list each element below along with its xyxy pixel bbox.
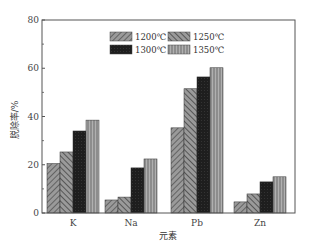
y-tick-label: 40 <box>28 112 40 122</box>
legend-item: 1200℃ <box>110 32 166 42</box>
bar-na-0 <box>105 200 118 213</box>
legend-item: 1300℃ <box>110 45 166 55</box>
legend: 1200℃1250℃1300℃1350℃ <box>110 32 224 55</box>
x-axis-title: 元素 <box>159 230 177 241</box>
bar-pb-3 <box>210 68 223 213</box>
bar-zn-3 <box>273 177 286 213</box>
legend-label: 1300℃ <box>135 45 166 55</box>
bar-k-1 <box>60 152 73 213</box>
bar-na-1 <box>118 197 131 213</box>
legend-label: 1350℃ <box>193 45 224 55</box>
bar-na-3 <box>144 159 157 213</box>
legend-item: 1250℃ <box>168 32 224 42</box>
y-tick-label: 60 <box>28 63 40 73</box>
bar-na-2 <box>131 168 144 213</box>
x-tick-label: K <box>70 218 77 228</box>
y-tick-label: 20 <box>28 160 40 170</box>
legend-swatch <box>168 45 190 54</box>
legend-swatch <box>168 32 190 41</box>
bar-k-0 <box>47 164 60 213</box>
x-tick-label: Zn <box>254 218 266 228</box>
bar-pb-1 <box>184 89 197 213</box>
y-tick-label: 0 <box>33 208 39 218</box>
bar-k-3 <box>86 120 99 213</box>
bar-k-2 <box>73 131 86 213</box>
bar-pb-2 <box>197 77 210 213</box>
bar-chart: KNaPbZn020406080 1200℃1250℃1300℃1350℃ 脱除… <box>0 0 309 251</box>
y-tick-label: 80 <box>28 15 40 25</box>
legend-label: 1250℃ <box>193 32 224 42</box>
x-tick-label: Pb <box>191 218 203 228</box>
bar-pb-0 <box>171 128 184 213</box>
bars-group <box>47 68 286 213</box>
legend-item: 1350℃ <box>168 45 224 55</box>
bar-zn-1 <box>247 194 260 213</box>
legend-swatch <box>110 45 132 54</box>
bar-zn-2 <box>260 182 273 213</box>
legend-label: 1200℃ <box>135 32 166 42</box>
bar-zn-0 <box>234 202 247 213</box>
legend-swatch <box>110 32 132 41</box>
x-tick-label: Na <box>124 218 138 228</box>
y-axis-title: 脱除率/% <box>9 100 20 139</box>
